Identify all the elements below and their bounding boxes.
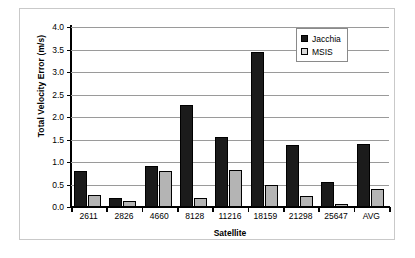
- y-tick-label: 1.5: [52, 135, 64, 145]
- legend-label-jacchia: Jacchia: [312, 34, 341, 44]
- bar-group: [106, 27, 141, 207]
- x-tick-label-2826: 2826: [115, 211, 134, 221]
- x-tick-label-21298: 21298: [289, 211, 313, 221]
- x-tick-label-8128: 8128: [185, 211, 204, 221]
- bar-group: [71, 27, 106, 207]
- bar-msis-11216: [229, 170, 242, 207]
- bar-msis-8128: [194, 198, 207, 207]
- x-tick-label-4660: 4660: [150, 211, 169, 221]
- bar-msis-18159: [265, 185, 278, 207]
- y-tick-label: 0.0: [52, 202, 64, 212]
- x-tick-label-AVG: AVG: [363, 211, 380, 221]
- x-tick-mark: [389, 207, 391, 212]
- x-axis-title: Satellite: [71, 228, 389, 238]
- bar-msis-AVG: [371, 189, 384, 207]
- legend-swatch-msis-icon: [301, 48, 308, 55]
- y-axis-title: Total Velocity Error (m/s): [36, 21, 46, 151]
- bar-jacchia-8128: [180, 105, 193, 207]
- bar-jacchia-21298: [286, 145, 299, 207]
- y-tick-label: 1.0: [52, 157, 64, 167]
- y-tick-label: 4.0: [52, 22, 64, 32]
- chart-legend: Jacchia MSIS: [296, 28, 348, 62]
- bar-msis-4660: [159, 171, 172, 207]
- x-tick-label-18159: 18159: [254, 211, 278, 221]
- x-tick-label-2611: 2611: [80, 211, 98, 221]
- x-tick-label-11216: 11216: [218, 211, 241, 221]
- legend-swatch-jacchia-icon: [301, 35, 308, 42]
- bar-group: [248, 27, 283, 207]
- bar-group: [212, 27, 247, 207]
- bar-group: [354, 27, 389, 207]
- bar-jacchia-AVG: [357, 144, 370, 207]
- y-tick-label: 3.0: [52, 67, 64, 77]
- x-tick-label-25647: 25647: [324, 211, 348, 221]
- gridline: [71, 207, 389, 208]
- bar-jacchia-25647: [321, 182, 334, 207]
- y-tick-label: 0.5: [52, 180, 64, 190]
- bar-msis-25647: [335, 204, 348, 207]
- legend-label-msis: MSIS: [312, 47, 333, 57]
- bar-jacchia-18159: [251, 52, 264, 207]
- bar-jacchia-11216: [215, 137, 228, 207]
- legend-entry-jacchia: Jacchia: [301, 32, 341, 45]
- bar-group: [142, 27, 177, 207]
- bar-msis-21298: [300, 196, 313, 207]
- bar-group: [177, 27, 212, 207]
- y-tick-label: 2.0: [52, 112, 64, 122]
- chart-frame: Total Velocity Error (m/s) 4.03.53.02.52…: [19, 8, 395, 240]
- y-tick-label: 2.5: [52, 90, 64, 100]
- bar-jacchia-2611: [74, 171, 87, 207]
- y-tick-label: 3.5: [52, 45, 64, 55]
- legend-entry-msis: MSIS: [301, 45, 341, 58]
- bar-jacchia-2826: [109, 198, 122, 207]
- bar-msis-2611: [88, 195, 101, 207]
- bar-jacchia-4660: [145, 166, 158, 207]
- x-axis-labels: 261128264660812811216181592129825647AVG: [71, 211, 389, 225]
- bar-msis-2826: [123, 201, 136, 207]
